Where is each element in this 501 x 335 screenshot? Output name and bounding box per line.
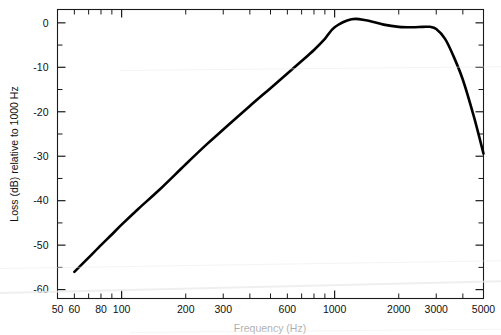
x-tick-label: 50 bbox=[52, 303, 64, 315]
x-tick-label: 200 bbox=[177, 303, 195, 315]
y-tick-label: 0 bbox=[43, 17, 49, 29]
x-axis-ticks-top bbox=[58, 10, 484, 18]
x-tick-label: 100 bbox=[113, 303, 131, 315]
x-tick-label: 60 bbox=[69, 303, 81, 315]
loss-response-curve bbox=[74, 19, 483, 272]
y-tick-label: -30 bbox=[33, 150, 48, 162]
x-tick-label: 3000 bbox=[425, 303, 449, 315]
chart-plot: 5060801002003006001000200030005000 0-10-… bbox=[0, 0, 501, 335]
x-tick-label: 5000 bbox=[472, 303, 496, 315]
y-axis-tick-labels: 0-10-20-30-40-50-60 bbox=[33, 17, 48, 296]
y-tick-label: -60 bbox=[33, 283, 48, 295]
x-tick-label: 2000 bbox=[387, 303, 411, 315]
x-axis-title: Frequency (Hz) bbox=[234, 322, 306, 334]
y-tick-label: -50 bbox=[33, 239, 48, 251]
x-axis-ticks-bottom bbox=[58, 291, 484, 299]
y-tick-label: -20 bbox=[33, 106, 48, 118]
y-tick-label: -40 bbox=[33, 194, 48, 206]
x-tick-label: 1000 bbox=[323, 303, 347, 315]
x-tick-label: 300 bbox=[214, 303, 232, 315]
plot-frame bbox=[58, 10, 484, 299]
figure-container: 5060801002003006001000200030005000 0-10-… bbox=[0, 0, 501, 335]
x-tick-label: 80 bbox=[95, 303, 107, 315]
y-tick-label: -10 bbox=[33, 61, 48, 73]
x-tick-label: 600 bbox=[279, 303, 297, 315]
y-axis-ticks bbox=[58, 23, 484, 290]
y-axis-title: Loss (dB) relative to 1000 Hz bbox=[8, 86, 20, 221]
x-axis-tick-labels: 5060801002003006001000200030005000 bbox=[52, 303, 496, 315]
